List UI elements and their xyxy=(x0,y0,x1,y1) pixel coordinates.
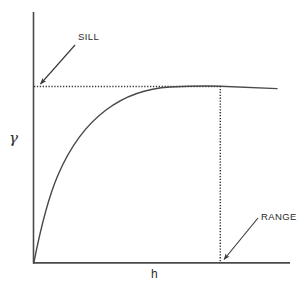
y-axis-label: γ xyxy=(9,131,18,146)
variogram-curve xyxy=(34,86,277,263)
range-annotation-label: RANGE xyxy=(261,212,297,222)
x-axis-label: h xyxy=(151,268,158,280)
range-arrow xyxy=(224,218,258,260)
sill-arrow xyxy=(41,45,76,84)
variogram-diagram: SILL RANGE γ h xyxy=(0,0,305,292)
sill-annotation-label: SILL xyxy=(78,32,99,42)
diagram-canvas xyxy=(0,0,305,292)
